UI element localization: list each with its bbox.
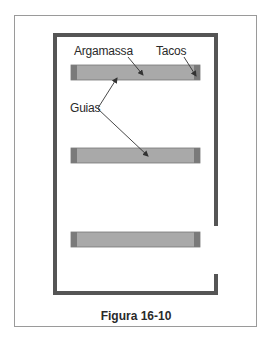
block-right (194, 65, 200, 80)
block-left (71, 232, 77, 247)
guide-bar-3 (71, 232, 200, 247)
label-guides: Guias (70, 101, 100, 115)
guide-bar-2 (71, 148, 200, 163)
label-blocks: Tacos (156, 44, 186, 58)
block-right (194, 148, 200, 163)
block-left (71, 148, 77, 163)
floor-plan-diagram (0, 0, 272, 344)
block-left (71, 65, 77, 80)
label-mortar: Argamassa (74, 44, 133, 58)
guide-bar-1 (71, 65, 200, 80)
figure-caption: Figura 16-10 (0, 309, 272, 323)
block-right (194, 232, 200, 247)
arrow-guides-1 (98, 78, 117, 108)
